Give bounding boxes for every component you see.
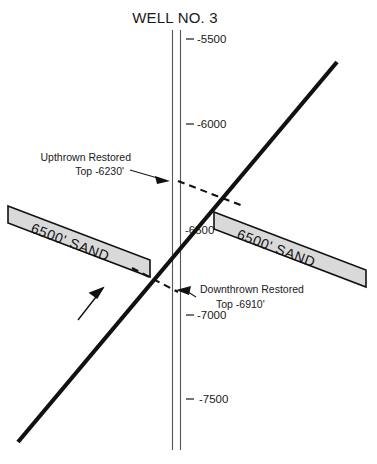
annotation-arrowhead-icon — [155, 176, 170, 184]
depth-tick-group-7500: -7500 — [186, 393, 228, 405]
cross-section-svg: WELL NO. 3 -5500 -6000 -6500 -7000 — [0, 0, 377, 464]
figure-title: WELL NO. 3 — [132, 9, 218, 26]
annotation-upthrown-restored: Upthrown Restored Top -6230' — [41, 151, 170, 184]
depth-tick-label: -6000 — [197, 118, 226, 130]
annotation-line-1: Upthrown Restored — [41, 151, 132, 163]
depth-tick-label: -7500 — [199, 393, 228, 405]
depth-tick-group-6000: -6000 — [186, 118, 226, 130]
annotation-line-1: Downthrown Restored — [200, 283, 304, 295]
sand-body-upthrown: 6500' SAND — [8, 206, 150, 277]
annotation-line-2: Top -6910' — [216, 298, 265, 310]
depth-tick-label: -5500 — [197, 33, 226, 45]
annotation-downthrown-restored: Downthrown Restored Top -6910' — [176, 283, 304, 310]
depth-tick-group-7000: -7000 — [186, 309, 226, 321]
wellbore — [173, 30, 181, 450]
depth-tick-label: -7000 — [197, 309, 226, 321]
fault-slip-arrow-icon — [78, 288, 103, 320]
sand-body-downthrown: 6500' SAND — [214, 212, 366, 287]
depth-tick-group-5500: -5500 — [186, 33, 226, 45]
annotation-arrowhead-icon — [176, 286, 191, 295]
well-cross-section-figure: WELL NO. 3 -5500 -6000 -6500 -7000 — [0, 0, 377, 464]
annotation-line-2: Top -6230' — [75, 165, 124, 177]
